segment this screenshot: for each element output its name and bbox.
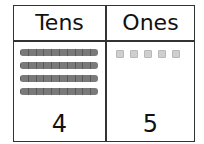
tens-digit: 4 xyxy=(14,110,105,138)
ones-cube-icon xyxy=(130,50,138,58)
ones-digit: 5 xyxy=(106,110,195,138)
ones-cube-icon xyxy=(172,50,180,58)
place-value-table: Tens Ones 4 5 xyxy=(13,5,195,142)
ones-cube-icon xyxy=(158,50,166,58)
tens-rod-icon xyxy=(20,49,98,56)
tens-rod-icon xyxy=(20,88,98,95)
ones-cube-icon xyxy=(144,50,152,58)
tens-rod-icon xyxy=(20,75,98,82)
tens-header: Tens xyxy=(14,6,105,40)
header-divider xyxy=(14,40,194,42)
ones-cube-icon xyxy=(116,50,124,58)
tens-rod-icon xyxy=(20,62,98,69)
ones-header: Ones xyxy=(106,6,195,40)
